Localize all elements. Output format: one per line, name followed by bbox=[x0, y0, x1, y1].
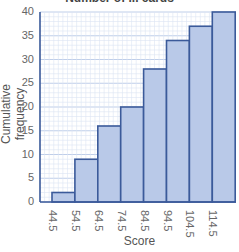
x-tick-label: 44.5 bbox=[47, 210, 59, 231]
x-tick-label: 64.5 bbox=[93, 210, 105, 231]
y-tick-label: 40 bbox=[14, 5, 34, 17]
histogram-bar bbox=[75, 159, 98, 202]
y-tick-label: 10 bbox=[14, 148, 34, 160]
y-tick-label: 15 bbox=[14, 124, 34, 136]
histogram-bar bbox=[212, 12, 235, 202]
histogram-bar bbox=[98, 126, 121, 202]
y-tick-label: 35 bbox=[14, 29, 34, 41]
y-tick-label: 0 bbox=[14, 195, 34, 207]
x-tick-label: 114.5 bbox=[207, 210, 219, 237]
histogram-bar bbox=[121, 107, 144, 202]
y-tick-label: 20 bbox=[14, 100, 34, 112]
x-tick-label: 84.5 bbox=[139, 210, 151, 231]
histogram-bar bbox=[52, 193, 75, 203]
y-tick-label: 5 bbox=[14, 171, 34, 183]
y-tick-label: 25 bbox=[14, 76, 34, 88]
histogram-bar bbox=[189, 26, 212, 202]
y-tick-label: 30 bbox=[14, 53, 34, 65]
x-tick-label: 74.5 bbox=[116, 210, 128, 231]
x-tick-label: 94.5 bbox=[162, 210, 174, 231]
x-tick-label: 104.5 bbox=[184, 210, 196, 238]
x-tick-label: 54.5 bbox=[70, 210, 82, 231]
histogram-bar bbox=[167, 41, 190, 203]
histogram-bar bbox=[144, 69, 167, 202]
